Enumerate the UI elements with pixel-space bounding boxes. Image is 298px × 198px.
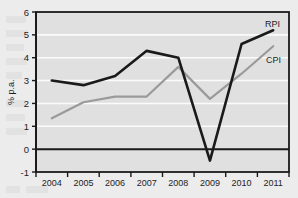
y-tick-label-0: 0 xyxy=(24,144,29,155)
x-tick-label-2007: 2007 xyxy=(137,178,157,188)
y-tick-label-minus1: -1 xyxy=(21,167,29,178)
y-tick-label-1: 1 xyxy=(24,121,29,132)
x-tick-label-2009: 2009 xyxy=(200,178,220,188)
x-tick-label-2008: 2008 xyxy=(168,178,188,188)
y-tick-label-4: 4 xyxy=(24,52,29,63)
y-tick-label-3: 3 xyxy=(24,75,29,86)
y-tick-label-6: 6 xyxy=(24,7,29,18)
y-tick-label-5: 5 xyxy=(24,29,29,40)
x-tick-label-2011: 2011 xyxy=(264,178,283,188)
series-label-rpi: RPI xyxy=(265,19,280,29)
x-tick-label-2005: 2005 xyxy=(73,178,93,188)
inflation-line-chart: 6 5 4 3 2 1 0 -1 % p.a. 2004 2005 2006 2… xyxy=(0,0,298,198)
y-tick-label-2: 2 xyxy=(24,98,29,109)
plot-area-background xyxy=(36,12,289,172)
x-tick-label-2010: 2010 xyxy=(231,178,251,188)
x-tick-label-2004: 2004 xyxy=(42,178,62,188)
x-tick-label-2006: 2006 xyxy=(105,178,125,188)
series-label-cpi: CPI xyxy=(266,55,281,65)
chart-canvas: 6 5 4 3 2 1 0 -1 % p.a. 2004 2005 2006 2… xyxy=(0,0,298,198)
y-axis-title: % p.a. xyxy=(6,79,16,105)
